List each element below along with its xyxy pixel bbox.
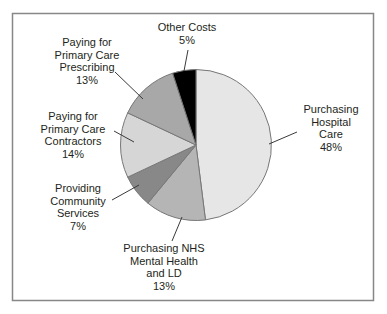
label-pct: 48% (303, 141, 359, 154)
pie-label-paying-primary-care-prescribing: Paying for Primary Care Prescribing 13% (55, 36, 120, 86)
label-text: Purchasing Hospital Care (303, 103, 359, 141)
pie-label-purchasing-nhs-mental-health: Purchasing NHS Mental Health and LD 13% (123, 242, 204, 292)
pie-slice-purchasing-hospital-care (196, 70, 271, 220)
label-pct: 5% (158, 34, 217, 47)
pie-label-purchasing-hospital-care: Purchasing Hospital Care 48% (303, 103, 359, 153)
leader-line-providing-community-services (112, 185, 139, 200)
label-pct: 7% (50, 220, 106, 233)
label-text: Providing Community Services (50, 182, 106, 220)
label-pct: 13% (123, 280, 204, 293)
label-text: Purchasing NHS Mental Health and LD (123, 242, 204, 280)
leader-line-other-costs (184, 50, 188, 71)
label-pct: 14% (41, 148, 106, 161)
pie-label-paying-primary-care-contractors: Paying for Primary Care Contractors 14% (41, 110, 106, 160)
pie-label-other-costs: Other Costs 5% (158, 21, 217, 46)
pie-label-providing-community-services: Providing Community Services 7% (50, 182, 106, 232)
pie-slices-group (121, 70, 272, 221)
label-pct: 13% (55, 74, 120, 87)
label-text: Other Costs (158, 21, 217, 34)
leader-line-purchasing-nhs-mental-health (172, 217, 182, 241)
pie-chart-figure: Purchasing Hospital Care 48% Purchasing … (0, 0, 387, 314)
label-text: Paying for Primary Care Contractors (41, 110, 106, 148)
label-text: Paying for Primary Care Prescribing (55, 36, 120, 74)
leader-line-purchasing-hospital-care (269, 132, 297, 144)
